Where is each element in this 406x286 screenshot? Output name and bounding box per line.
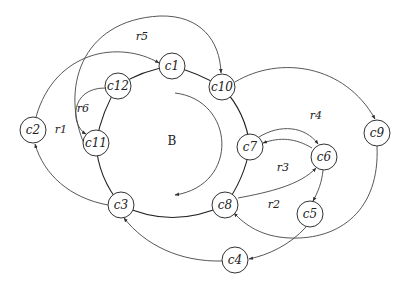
edge-c10-c9 — [235, 68, 375, 119]
rotation-arrow — [175, 93, 222, 195]
node-c3: c3 — [108, 192, 134, 218]
svg-text:c8: c8 — [218, 198, 233, 212]
region-labels: r5 r1 r6 r4 r3 r2 — [55, 30, 322, 211]
node-c6: c6 — [311, 144, 337, 170]
node-c9: c9 — [364, 120, 390, 146]
svg-text:c10: c10 — [211, 80, 233, 94]
node-c7: c7 — [237, 134, 263, 160]
edge-c6-c7 — [263, 139, 312, 148]
node-c10: c10 — [209, 74, 235, 100]
svg-text:c9: c9 — [370, 126, 385, 140]
center-label-b: B — [168, 134, 177, 148]
node-c1: c1 — [159, 53, 185, 79]
edge-c5-c4 — [249, 227, 306, 259]
edge-c4-c3 — [124, 218, 222, 261]
node-c11: c11 — [83, 130, 109, 156]
planar-map-diagram: B r5 r1 r6 r4 r3 r2 c1 c10 c12 c11 c2 c7… — [0, 0, 406, 286]
svg-text:c7: c7 — [243, 140, 258, 154]
svg-text:c2: c2 — [26, 123, 40, 137]
svg-text:c3: c3 — [114, 198, 129, 212]
edge-c2-c1 — [36, 52, 159, 117]
node-c2: c2 — [20, 117, 46, 143]
node-c12: c12 — [105, 73, 131, 99]
region-label-r4: r4 — [310, 109, 322, 122]
svg-text:c1: c1 — [165, 59, 179, 73]
node-c8: c8 — [212, 192, 238, 218]
svg-text:c4: c4 — [228, 253, 242, 267]
region-label-r5: r5 — [136, 30, 148, 43]
region-label-r1: r1 — [55, 123, 67, 136]
edge-c6-c5 — [313, 170, 323, 201]
svg-text:c12: c12 — [107, 79, 129, 93]
svg-text:c11: c11 — [85, 136, 107, 150]
region-label-r6: r6 — [77, 102, 89, 115]
node-c4: c4 — [222, 247, 248, 273]
svg-text:c5: c5 — [303, 207, 317, 221]
svg-text:c6: c6 — [317, 150, 332, 164]
region-label-r3: r3 — [277, 161, 289, 174]
region-label-r2: r2 — [268, 198, 280, 211]
node-c5: c5 — [297, 201, 323, 227]
